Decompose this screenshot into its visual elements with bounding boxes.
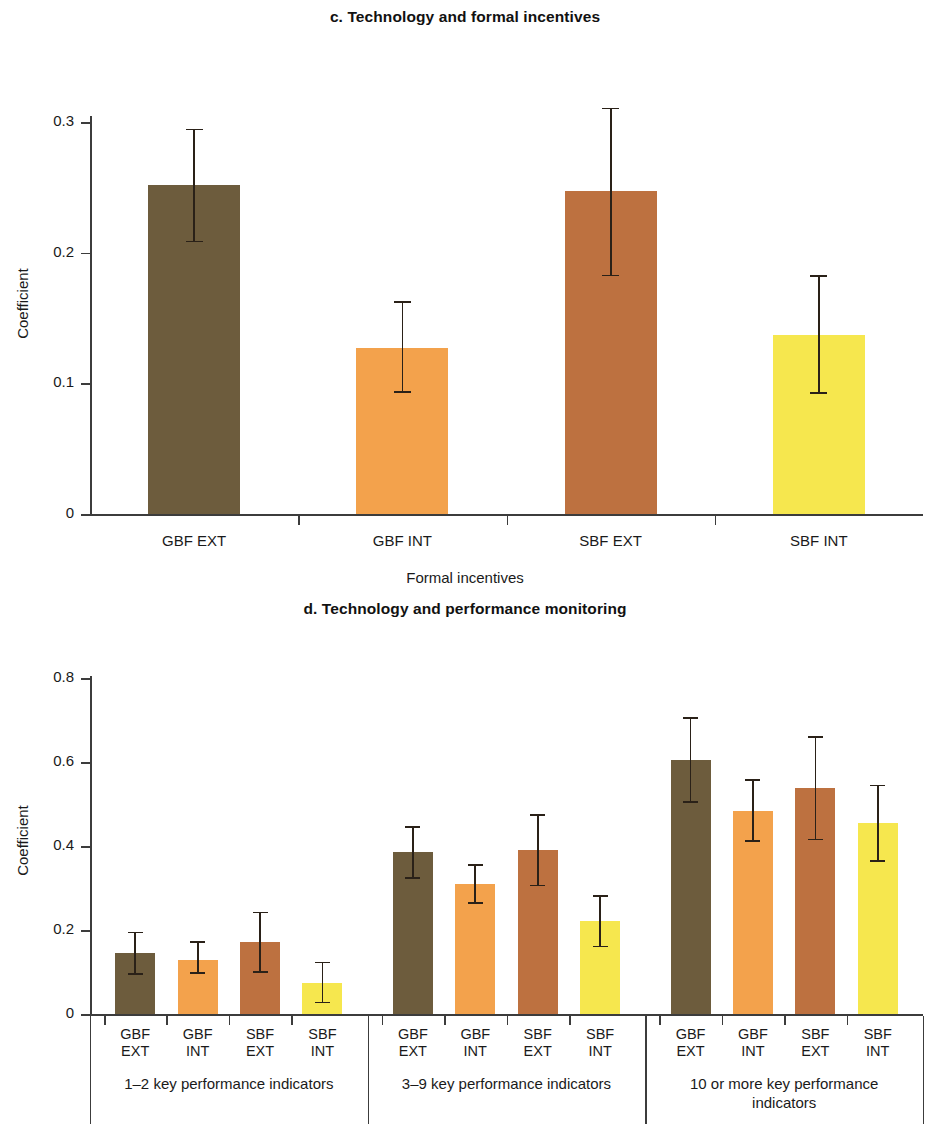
- panel-c-x-tick: [298, 516, 300, 525]
- panel-d-y-tick-label: 0.2: [14, 920, 74, 937]
- error-bar-cap-bottom: [808, 839, 823, 841]
- error-bar-cap-bottom: [593, 946, 608, 948]
- error-bar-stem: [412, 826, 414, 879]
- panel-d-y-tick-label: 0.8: [14, 668, 74, 685]
- panel-c-y-axis: [90, 116, 92, 514]
- error-bar-stem: [815, 736, 817, 840]
- panel-d-x-tick: [659, 1016, 661, 1025]
- panel-d-category-label: GBF INT: [444, 1026, 506, 1060]
- panel-d-category-label: SBF INT: [847, 1026, 909, 1060]
- panel-d-group-separator: [645, 1016, 646, 1124]
- error-bar-g3-gbf-ext: [677, 717, 705, 803]
- error-bar-cap-bottom: [128, 973, 143, 975]
- panel-d-category-label: GBF EXT: [382, 1026, 444, 1060]
- error-bar-cap-top: [530, 814, 545, 816]
- panel-c-plot: Coefficient Formal incentives 00.10.20.3…: [0, 26, 930, 586]
- error-bar-cap-bottom: [870, 860, 885, 862]
- panel-d-x-tick: [784, 1016, 786, 1025]
- panel-d-x-tick: [847, 1016, 849, 1025]
- error-bar-cap-top: [190, 941, 205, 943]
- error-bar-stem: [193, 129, 195, 243]
- error-bar-sbf-int: [799, 275, 839, 394]
- panel-d-x-tick: [229, 1016, 231, 1025]
- error-bar-cap-top: [468, 864, 483, 866]
- panel-d-category-label: SBF EXT: [784, 1026, 846, 1060]
- panel-d-group-label: 10 or more key performance indicators: [645, 1074, 923, 1112]
- error-bar-g1-sbf-int: [308, 962, 336, 1004]
- error-bar-cap-bottom: [315, 1002, 330, 1004]
- error-bar-cap-top: [394, 301, 411, 303]
- error-bar-g1-gbf-ext: [121, 932, 149, 975]
- error-bar-g1-sbf-ext: [246, 912, 274, 973]
- panel-d-x-tick: [291, 1016, 293, 1025]
- panel-d-category-label: GBF INT: [166, 1026, 228, 1060]
- error-bar-stem: [402, 301, 404, 392]
- panel-d-y-axis: [90, 676, 92, 1014]
- panel-d-category-label: GBF INT: [722, 1026, 784, 1060]
- panel-c-y-axis-label: Coefficient: [14, 244, 31, 364]
- panel-c-y-tick: [81, 514, 90, 516]
- error-bar-g3-sbf-int: [864, 785, 892, 863]
- panel-c-category-label: GBF EXT: [90, 532, 298, 549]
- panel-d-x-tick: [444, 1016, 446, 1025]
- error-bar-cap-top: [602, 108, 619, 110]
- error-bar-cap-bottom: [745, 840, 760, 842]
- error-bar-gbf-int: [382, 301, 422, 392]
- panel-d-x-tick: [104, 1016, 106, 1025]
- panel-d-y-tick-label: 0: [14, 1004, 74, 1021]
- panel-c-x-axis-label: Formal incentives: [0, 569, 930, 586]
- panel-d-x-tick: [569, 1016, 571, 1025]
- panel-c-y-tick-label: 0.3: [14, 112, 74, 129]
- error-bar-g2-sbf-int: [586, 895, 614, 947]
- error-bar-stem: [752, 779, 754, 841]
- panel-d-category-label: SBF EXT: [507, 1026, 569, 1060]
- error-bar-sbf-ext: [591, 108, 631, 277]
- error-bar-stem: [259, 912, 261, 973]
- error-bar-stem: [322, 962, 324, 1004]
- error-bar-cap-bottom: [530, 885, 545, 887]
- error-bar-cap-bottom: [468, 902, 483, 904]
- error-bar-cap-top: [870, 785, 885, 787]
- panel-d-category-label: SBF INT: [291, 1026, 353, 1060]
- error-bar-cap-top: [186, 129, 203, 131]
- panel-c-y-tick: [81, 122, 90, 124]
- panel-d-y-tick-label: 0.6: [14, 752, 74, 769]
- error-bar-g3-sbf-ext: [801, 736, 829, 840]
- panel-d-x-tick: [382, 1016, 384, 1025]
- panel-c-y-tick-label: 0.2: [14, 243, 74, 260]
- panel-d-group-label: 3–9 key performance indicators: [368, 1074, 646, 1093]
- panel-d-y-tick: [81, 930, 90, 932]
- panel-d-plot: Coefficient 00.20.40.60.8GBF EXTGBF INTS…: [0, 618, 930, 1128]
- error-bar-cap-top: [810, 275, 827, 277]
- panel-d-x-tick: [507, 1016, 509, 1025]
- panel-d-y-tick: [81, 1014, 90, 1016]
- error-bar-cap-bottom: [683, 801, 698, 803]
- panel-d-y-tick-label: 0.4: [14, 836, 74, 853]
- panel-d-x-tick: [166, 1016, 168, 1025]
- panel-d-category-label: GBF EXT: [104, 1026, 166, 1060]
- panel-d-y-tick: [81, 762, 90, 764]
- error-bar-stem: [818, 275, 820, 394]
- error-bar-cap-bottom: [394, 391, 411, 393]
- panel-c-title: c. Technology and formal incentives: [0, 8, 930, 26]
- error-bar-stem: [877, 785, 879, 863]
- panel-d-category-label: SBF EXT: [229, 1026, 291, 1060]
- error-bar-stem: [474, 864, 476, 904]
- error-bar-cap-bottom: [810, 392, 827, 394]
- error-bar-cap-top: [405, 826, 420, 828]
- panel-c-category-label: SBF EXT: [507, 532, 715, 549]
- error-bar-stem: [690, 717, 692, 803]
- panel-d-y-tick: [81, 846, 90, 848]
- error-bar-stem: [537, 814, 539, 886]
- panel-c-y-tick-label: 0: [14, 504, 74, 521]
- error-bar-g2-sbf-ext: [524, 814, 552, 886]
- panel-d-x-tick: [722, 1016, 724, 1025]
- error-bar-cap-top: [745, 779, 760, 781]
- panel-c-x-tick: [507, 516, 509, 525]
- error-bar-cap-top: [808, 736, 823, 738]
- error-bar-cap-top: [315, 962, 330, 964]
- panel-d-group-label: 1–2 key performance indicators: [90, 1074, 368, 1093]
- error-bar-g2-gbf-ext: [399, 826, 427, 879]
- error-bar-cap-bottom: [602, 275, 619, 277]
